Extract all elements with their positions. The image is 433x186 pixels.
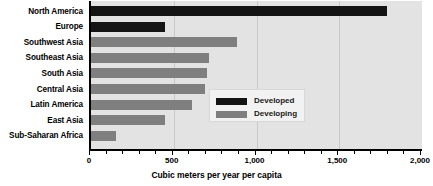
x-tick-minor [370, 151, 371, 154]
x-tick-minor [139, 151, 140, 154]
x-tick-minor [155, 151, 156, 154]
category-label: East Asia [0, 116, 83, 125]
x-tick-minor [238, 151, 239, 154]
bar [91, 131, 116, 141]
x-tick-minor [205, 151, 206, 154]
x-tick-major [337, 151, 338, 155]
legend-swatch-developed [216, 98, 247, 105]
category-axis: North AmericaEuropeSouthwest AsiaSouthea… [0, 0, 86, 150]
plot-area [89, 1, 422, 149]
x-axis-title: Cubic meters per year per capita [0, 170, 433, 180]
bar [91, 37, 237, 47]
bar [91, 6, 387, 16]
x-tick-minor [354, 151, 355, 154]
x-tick-minor [106, 151, 107, 154]
category-label: Europe [0, 22, 83, 31]
x-tick-label: 1,500 [327, 156, 347, 165]
category-label: Southwest Asia [0, 38, 83, 47]
x-tick-major [172, 151, 173, 155]
x-tick-minor [288, 151, 289, 154]
bar [91, 53, 209, 63]
bar [91, 115, 165, 125]
category-label: Latin America [0, 100, 83, 109]
x-tick-major [255, 151, 256, 155]
x-tick-minor [403, 151, 404, 154]
bar [91, 22, 165, 32]
x-tick-minor [271, 151, 272, 154]
x-tick-minor [321, 151, 322, 154]
bar [91, 84, 205, 94]
legend-label: Developing [254, 109, 297, 119]
category-label: South Asia [0, 69, 83, 78]
x-tick-minor [221, 151, 222, 154]
chart-legend: DevelopedDeveloping [209, 89, 305, 122]
gridline [339, 1, 340, 149]
x-tick-label: 0 [87, 156, 91, 165]
x-tick-minor [188, 151, 189, 154]
category-label: North America [0, 7, 83, 16]
x-tick-label: 1,000 [244, 156, 264, 165]
x-tick-major [89, 151, 90, 155]
bar-chart: North AmericaEuropeSouthwest AsiaSouthea… [0, 0, 433, 186]
legend-label: Developed [254, 96, 294, 106]
x-tick-minor [387, 151, 388, 154]
category-label: Central Asia [0, 85, 83, 94]
category-label: Sub-Saharan Africa [0, 131, 83, 140]
x-tick-minor [304, 151, 305, 154]
gridline [257, 1, 258, 149]
legend-swatch-developing [216, 111, 247, 118]
x-tick-major [420, 151, 421, 155]
category-label: Southeast Asia [0, 53, 83, 62]
bar [91, 100, 192, 110]
bar [91, 68, 207, 78]
x-tick-label: 500 [165, 156, 178, 165]
x-tick-minor [122, 151, 123, 154]
x-tick-label: 2,000 [410, 156, 430, 165]
